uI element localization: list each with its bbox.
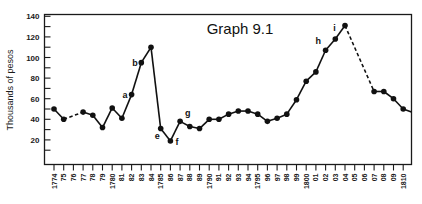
x-tick-label: 03 — [332, 173, 339, 181]
y-tick-label: 100 — [26, 54, 40, 63]
point-annotation-h: h — [316, 36, 322, 46]
y-axis: 20406080100120140 — [26, 12, 50, 150]
data-point — [274, 115, 280, 121]
data-point — [129, 92, 135, 98]
data-point — [51, 106, 57, 112]
data-point — [400, 106, 406, 112]
x-axis: 1774757677787917808182838417858687888917… — [51, 165, 407, 190]
data-point — [323, 47, 329, 53]
data-point — [294, 97, 300, 103]
data-series — [51, 23, 411, 144]
chart-title: Graph 9.1 — [207, 20, 274, 37]
series-segment — [64, 112, 83, 119]
x-tick-label: 06 — [361, 173, 368, 181]
data-point — [236, 108, 242, 114]
data-point — [333, 36, 339, 42]
y-tick-label: 140 — [26, 12, 40, 21]
data-point — [245, 108, 251, 114]
series-segment — [345, 26, 374, 92]
plot-frame — [45, 15, 412, 165]
x-tick-label: 92 — [225, 173, 232, 181]
data-point — [371, 89, 377, 95]
data-point — [391, 96, 397, 102]
x-tick-label: 1810 — [400, 173, 407, 189]
x-tick-label: 86 — [167, 173, 174, 181]
point-annotation-g: g — [185, 108, 191, 118]
y-tick-label: 40 — [31, 115, 40, 124]
point-annotation-i: i — [333, 23, 336, 33]
data-point — [168, 138, 174, 144]
x-tick-label: 98 — [283, 173, 290, 181]
data-point — [381, 89, 387, 95]
x-tick-label: 1780 — [109, 173, 116, 189]
x-tick-label: 94 — [245, 173, 252, 181]
x-tick-label: 1800 — [303, 173, 310, 189]
y-tick-label: 80 — [31, 74, 40, 83]
x-tick-label: 01 — [312, 173, 319, 181]
series-segment — [297, 81, 307, 100]
x-tick-label: 83 — [138, 173, 145, 181]
y-axis-label: Thousands of pesos — [5, 49, 15, 131]
x-tick-label: 76 — [70, 173, 77, 181]
data-point — [313, 69, 319, 75]
x-tick-label: 88 — [186, 173, 193, 181]
x-tick-label: 79 — [99, 173, 106, 181]
data-point — [119, 115, 125, 121]
data-point — [255, 111, 261, 117]
x-tick-label: 1790 — [206, 173, 213, 189]
x-tick-label: 89 — [196, 173, 203, 181]
x-tick-label: 09 — [390, 173, 397, 181]
data-point — [265, 119, 271, 125]
y-tick-label: 120 — [26, 33, 40, 42]
point-annotation-f: f — [175, 137, 179, 147]
x-tick-label: 97 — [274, 173, 281, 181]
data-point — [226, 111, 232, 117]
x-tick-label: 82 — [128, 173, 135, 181]
x-tick-label: 93 — [235, 173, 242, 181]
x-tick-label: 91 — [215, 173, 222, 181]
chart: 20406080100120140 1774757677787917808182… — [0, 0, 422, 204]
point-annotation-a: a — [123, 90, 129, 100]
data-point — [109, 105, 115, 111]
x-tick-label: 81 — [118, 173, 125, 181]
x-tick-label: 75 — [60, 173, 67, 181]
x-tick-label: 02 — [322, 173, 329, 181]
data-point — [80, 109, 86, 115]
data-point — [61, 117, 67, 123]
data-point — [148, 44, 154, 50]
data-point — [139, 60, 145, 66]
x-tick-label: 07 — [371, 173, 378, 181]
data-point — [100, 125, 106, 131]
data-point — [284, 111, 290, 117]
x-tick-label: 99 — [293, 173, 300, 181]
x-tick-label: 96 — [264, 173, 271, 181]
point-annotation-b: b — [132, 58, 138, 68]
data-point — [303, 78, 309, 84]
series-segment — [103, 108, 113, 128]
x-tick-label: 78 — [89, 173, 96, 181]
data-point — [90, 112, 96, 118]
x-tick-label: 05 — [351, 173, 358, 181]
x-tick-label: 1774 — [51, 173, 58, 189]
x-tick-label: 04 — [342, 173, 349, 181]
data-point — [197, 126, 203, 132]
x-tick-label: 87 — [177, 173, 184, 181]
data-point — [187, 124, 193, 130]
x-tick-label: 1795 — [254, 173, 261, 189]
y-tick-label: 60 — [31, 95, 40, 104]
series-segment — [316, 50, 326, 72]
series-segment — [151, 47, 161, 128]
point-annotation-e: e — [155, 131, 160, 141]
data-point — [177, 119, 183, 125]
x-tick-label: 77 — [80, 173, 87, 181]
data-point — [206, 117, 212, 123]
x-tick-label: 84 — [148, 173, 155, 181]
data-point — [216, 117, 222, 123]
x-tick-label: 1785 — [157, 173, 164, 189]
x-tick-label: 08 — [380, 173, 387, 181]
y-tick-label: 20 — [31, 136, 40, 145]
data-point — [342, 23, 348, 29]
